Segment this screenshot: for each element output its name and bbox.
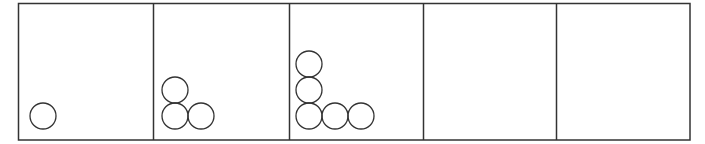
circle-icon: [188, 103, 214, 129]
circle-icon: [162, 103, 188, 129]
circle-icon: [162, 77, 188, 103]
outer-border: [19, 4, 691, 141]
circle-icon: [348, 103, 374, 129]
panel-3-circles: [296, 51, 374, 129]
circle-icon: [296, 103, 322, 129]
circle-icon: [30, 103, 56, 129]
circles-layer: [30, 51, 374, 129]
pattern-figure: [0, 0, 705, 144]
panel-2-circles: [162, 77, 214, 129]
panel-frame: [19, 4, 691, 141]
circle-icon: [322, 103, 348, 129]
circle-icon: [296, 51, 322, 77]
circle-icon: [296, 77, 322, 103]
panel-1-circles: [30, 103, 56, 129]
